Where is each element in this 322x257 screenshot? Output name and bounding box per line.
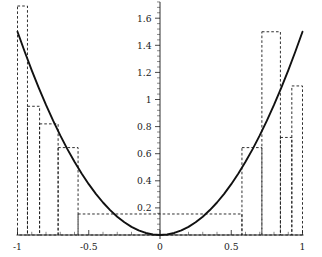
y-tick-label: 0.6 xyxy=(137,148,152,159)
x-tick-label: 0.5 xyxy=(224,241,239,252)
y-axis-tick-labels: 0.20.40.60.811.21.41.6 xyxy=(137,13,152,214)
y-tick-label: 0.4 xyxy=(137,175,152,186)
x-tick-label: 1 xyxy=(300,241,306,252)
y-tick-label: 1 xyxy=(146,94,152,105)
y-tick-label: 0.2 xyxy=(137,202,152,213)
y-tick-label: 0.8 xyxy=(137,121,152,132)
y-tick-label: 1.2 xyxy=(137,67,152,78)
y-axis-major-ticks xyxy=(155,18,160,208)
parabola-step-chart: -1-0.500.51 0.20.40.60.811.21.41.6 xyxy=(0,0,322,257)
chart-container: -1-0.500.51 0.20.40.60.811.21.41.6 xyxy=(0,0,322,257)
x-tick-label: -0.5 xyxy=(80,241,98,252)
x-tick-label: 0 xyxy=(157,241,163,252)
y-tick-label: 1.6 xyxy=(137,13,152,24)
x-tick-label: -1 xyxy=(13,241,22,252)
x-axis-tick-labels: -1-0.500.51 xyxy=(13,241,305,252)
y-tick-label: 1.4 xyxy=(137,40,152,51)
